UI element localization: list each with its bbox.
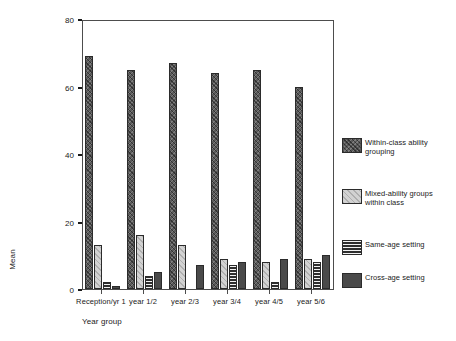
bar bbox=[196, 265, 204, 289]
bar bbox=[229, 265, 237, 289]
bar bbox=[271, 282, 279, 289]
bar bbox=[112, 286, 120, 289]
x-tick-label: year 2/3 bbox=[171, 297, 199, 306]
bar bbox=[145, 276, 153, 290]
x-tick-mark bbox=[185, 290, 186, 294]
y-tick-mark bbox=[78, 289, 82, 291]
bar bbox=[238, 262, 246, 289]
y-tick-label: 20 bbox=[46, 218, 74, 227]
x-tick-mark bbox=[101, 290, 102, 294]
y-tick-label: 60 bbox=[46, 83, 74, 92]
bar bbox=[136, 235, 144, 289]
bar bbox=[169, 63, 177, 289]
bar-group bbox=[211, 21, 246, 289]
x-tick-mark bbox=[269, 290, 270, 294]
x-tick-label: year 4/5 bbox=[255, 297, 283, 306]
x-tick-mark bbox=[143, 290, 144, 294]
bar bbox=[211, 73, 219, 289]
bars-container bbox=[83, 21, 333, 289]
y-tick-label: 80 bbox=[46, 16, 74, 25]
legend-swatch-icon bbox=[342, 138, 362, 153]
bar bbox=[280, 259, 288, 289]
x-axis-title: Year group bbox=[82, 317, 122, 326]
plot-area bbox=[82, 20, 334, 290]
x-tick-label: year 5/6 bbox=[297, 297, 325, 306]
legend-label: Same-age setting bbox=[365, 240, 425, 250]
bar bbox=[322, 255, 330, 289]
legend-item[interactable]: Within-class ability grouping bbox=[342, 138, 451, 156]
legend-swatch-icon bbox=[342, 189, 362, 204]
bar bbox=[262, 262, 270, 289]
bar bbox=[103, 282, 111, 289]
bar bbox=[253, 70, 261, 289]
y-tick-label: 0 bbox=[46, 286, 74, 295]
bar bbox=[304, 259, 312, 289]
bar bbox=[154, 272, 162, 289]
bar bbox=[295, 87, 303, 290]
y-tick-mark bbox=[78, 19, 82, 21]
bar bbox=[94, 245, 102, 289]
bar-group bbox=[295, 21, 330, 289]
y-tick-mark bbox=[78, 222, 82, 224]
legend-label: Within-class ability grouping bbox=[365, 138, 451, 156]
bar bbox=[220, 259, 228, 289]
legend-label: Mixed-ability groups within class bbox=[365, 189, 451, 207]
legend-item[interactable]: Cross-age setting bbox=[342, 273, 425, 288]
x-tick-label: Reception/yr 1 bbox=[76, 297, 126, 306]
legend-item[interactable]: Mixed-ability groups within class bbox=[342, 189, 451, 207]
bar-group bbox=[85, 21, 120, 289]
legend-swatch-icon bbox=[342, 273, 362, 288]
bar bbox=[178, 245, 186, 289]
legend-item[interactable]: Same-age setting bbox=[342, 240, 425, 255]
y-tick-mark bbox=[78, 87, 82, 89]
chart-legend: Within-class ability groupingMixed-abili… bbox=[342, 0, 456, 341]
legend-label: Cross-age setting bbox=[365, 273, 425, 283]
bar-group bbox=[127, 21, 162, 289]
y-axis-title: Mean bbox=[8, 230, 17, 290]
x-tick-mark bbox=[227, 290, 228, 294]
x-tick-label: year 3/4 bbox=[213, 297, 241, 306]
x-tick-mark bbox=[311, 290, 312, 294]
legend-swatch-icon bbox=[342, 240, 362, 255]
x-tick-label: year 1/2 bbox=[129, 297, 157, 306]
bar-chart: Mean 020406080 Year group Within-class a… bbox=[0, 0, 456, 341]
bar bbox=[127, 70, 135, 289]
bar-group bbox=[169, 21, 204, 289]
y-tick-label: 40 bbox=[46, 151, 74, 160]
y-axis-tick-labels: 020406080 bbox=[46, 0, 74, 341]
y-tick-mark bbox=[78, 154, 82, 156]
bar-group bbox=[253, 21, 288, 289]
bar bbox=[85, 56, 93, 289]
bar bbox=[313, 262, 321, 289]
